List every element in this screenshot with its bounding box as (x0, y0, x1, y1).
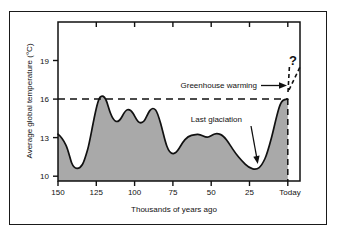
greenhouse-warming-label: Greenhouse warming (181, 81, 257, 90)
y-tick-label-16: 16 (40, 95, 49, 104)
last-glaciation-label: Last glaciation (191, 115, 242, 124)
uncertainty-question-mark: ? (289, 53, 297, 68)
x-tick-label-125: 125 (90, 188, 104, 197)
y-tick-label-10: 10 (40, 172, 49, 181)
x-tick-label-50: 50 (207, 188, 216, 197)
figure-container: ? 10 13 (0, 0, 348, 239)
y-tick-label-13: 13 (40, 134, 49, 143)
x-tick-label-today: Today (279, 188, 300, 197)
y-axis-title: Average global temperature (°C) (25, 43, 34, 158)
x-axis-title: Thousands of years ago (131, 205, 217, 214)
x-tick-label-100: 100 (128, 188, 142, 197)
temperature-history-chart: ? 10 13 (0, 0, 348, 239)
x-tick-label-150: 150 (51, 188, 65, 197)
x-tick-label-25: 25 (245, 188, 254, 197)
y-tick-label-19: 19 (40, 57, 49, 66)
x-tick-label-75: 75 (168, 188, 177, 197)
